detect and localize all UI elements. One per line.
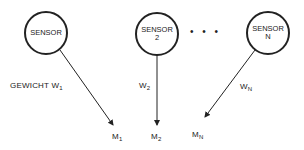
output-n-label: MN [192,130,203,140]
output-1-label: M1 [112,132,122,142]
output-2-label: M2 [151,132,161,142]
diagram-canvas [0,0,304,150]
weight-1-label: GEWICHT W1 [10,81,63,91]
ellipsis: • • • [190,26,221,37]
weight-2-label: W2 [139,81,150,91]
sensor-n-label: SENSORN [247,25,289,41]
weight-n-label: WN [240,82,252,92]
sensor-1-label: SENSOR [25,29,67,37]
arrow-1 [60,50,113,125]
sensor-2-label: SENSOR2 [136,26,178,42]
